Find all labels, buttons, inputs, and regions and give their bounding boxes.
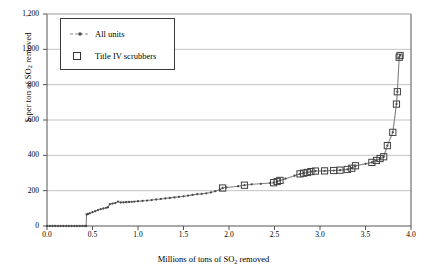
x-tick-label: 0.0 [32, 230, 62, 239]
y-axis-label-subscript: 2 [27, 65, 33, 68]
chart-figure: $ per ton of SO2 removed Millions of ton… [0, 0, 427, 273]
y-axis-label: $ per ton of SO2 removed [23, 0, 34, 157]
x-tick-label: 3.5 [351, 230, 381, 239]
legend-marker-open-square-icon [69, 50, 91, 62]
y-tick-label: 1,200 [5, 9, 39, 18]
legend-item-all-units: All units [69, 27, 125, 40]
legend-label-all-units: All units [95, 29, 125, 39]
legend-marker-line-dot-icon [69, 28, 91, 40]
x-tick-label: 4.0 [396, 230, 426, 239]
x-tick-label: 3.0 [305, 230, 335, 239]
y-tick-label: 400 [5, 150, 39, 159]
series-title-iv-scrubbers [220, 52, 404, 191]
x-tick-label: 1.5 [169, 230, 199, 239]
y-tick-label: 800 [5, 80, 39, 89]
x-tick-label: 2.5 [260, 230, 290, 239]
y-tick-label: 0 [5, 221, 39, 230]
x-tick-label: 2.0 [214, 230, 244, 239]
x-tick-label: 0.5 [78, 230, 108, 239]
series-all-units [46, 54, 401, 227]
y-tick-label: 200 [5, 186, 39, 195]
chart-legend: All units Title IV scrubbers [60, 18, 175, 70]
legend-item-title-iv-scrubbers: Title IV scrubbers [69, 49, 156, 62]
legend-label-title-iv-scrubbers: Title IV scrubbers [95, 51, 156, 61]
x-axis-label-suffix: removed [237, 254, 269, 264]
x-axis-label-prefix: Millions of tons of SO [158, 254, 235, 264]
x-tick-label: 1.0 [123, 230, 153, 239]
x-axis-label: Millions of tons of SO2 removed [0, 254, 427, 265]
y-tick-label: 1,000 [5, 44, 39, 53]
y-tick-label: 600 [5, 115, 39, 124]
